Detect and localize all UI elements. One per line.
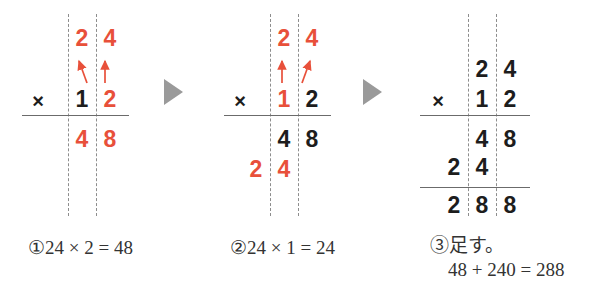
- step-2-caption-index: ②: [230, 237, 247, 258]
- digit-total-hundreds: 2: [441, 192, 467, 218]
- figure-canvas: 2 4 × 1 2 4 8 ①: [0, 0, 595, 300]
- product-rule: [420, 115, 530, 116]
- digit-multiplier-tens: 1: [271, 86, 297, 112]
- digit-partial2-hundreds: 2: [441, 154, 467, 180]
- step-3-caption: ③足す。: [430, 234, 504, 258]
- digit-multiplier-tens: 1: [469, 86, 495, 112]
- step-1-caption: ①24 × 2 = 48: [28, 236, 133, 260]
- digit-partial1-ones: 8: [497, 126, 523, 152]
- step-1-to-2-arrow-icon: [164, 79, 183, 105]
- digit-partial2-tens: 4: [469, 154, 495, 180]
- step-3-panel: 2 4 × 1 2 4 8 2 4 2 8 8 ③足す。 48 + 240 = …: [398, 0, 595, 300]
- digit-multiplier-ones: 2: [97, 86, 123, 112]
- digit-partial2-tens: 4: [271, 156, 297, 182]
- step-2-panel: 2 4 × 1 2 4 8 2 4: [200, 0, 365, 300]
- step-1-panel: 2 4 × 1 2 4 8 ①: [0, 0, 165, 300]
- digit-multiplicand-tens: 2: [69, 25, 95, 51]
- step-2-carry-arrows: [262, 55, 332, 87]
- step-1-carry-arrows: [60, 55, 130, 87]
- digit-multiplicand-tens: 2: [271, 25, 297, 51]
- step-2-worksheet: 2 4 × 1 2 4 8 2 4: [200, 0, 365, 225]
- step-1-caption-text: 24 × 2 = 48: [45, 237, 133, 258]
- step-3-caption-line2: 48 + 240 = 288: [448, 258, 564, 282]
- step-2-caption: ②24 × 1 = 24: [230, 236, 335, 260]
- digit-multiplicand-ones: 4: [299, 25, 325, 51]
- step-2-caption-text: 24 × 1 = 24: [247, 237, 335, 258]
- digit-multiplier-ones: 2: [497, 86, 523, 112]
- digit-partial1-tens: 4: [271, 126, 297, 152]
- multiplication-sign: ×: [426, 88, 450, 114]
- digit-multiplier-ones: 2: [299, 86, 325, 112]
- digit-partial1-ones: 8: [299, 126, 325, 152]
- digit-multiplicand-ones: 4: [497, 56, 523, 82]
- digit-total-ones: 8: [497, 192, 523, 218]
- sum-rule: [420, 187, 530, 188]
- digit-partial1-ones: 8: [97, 126, 123, 152]
- digit-multiplicand-tens: 2: [469, 56, 495, 82]
- digit-partial1-tens: 4: [469, 126, 495, 152]
- product-rule: [22, 115, 129, 116]
- digit-total-tens: 8: [469, 192, 495, 218]
- digit-partial1-tens: 4: [69, 126, 95, 152]
- step-3-caption-index: ③: [430, 235, 449, 256]
- product-rule: [224, 115, 331, 116]
- digit-multiplier-tens: 1: [69, 86, 95, 112]
- step-3-caption-text: 足す。: [449, 235, 504, 256]
- multiplication-sign: ×: [228, 88, 252, 114]
- multiplication-sign: ×: [26, 88, 50, 114]
- digit-multiplicand-ones: 4: [97, 25, 123, 51]
- step-1-caption-index: ①: [28, 237, 45, 258]
- digit-partial2-hundreds: 2: [243, 156, 269, 182]
- step-1-worksheet: 2 4 × 1 2 4 8: [0, 0, 165, 225]
- step-2-to-3-arrow-icon: [363, 79, 382, 105]
- step-3-worksheet: 2 4 × 1 2 4 8 2 4 2 8 8: [398, 0, 595, 225]
